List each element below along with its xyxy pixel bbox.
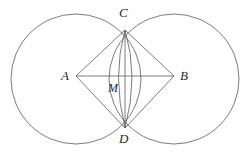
point-label-d: D [119, 132, 128, 145]
point-label-a: A [61, 69, 69, 82]
point-label-c: C [119, 6, 128, 19]
segment-AC [76, 30, 125, 76]
point-label-b: B [180, 69, 188, 82]
point-label-m: M [108, 82, 118, 95]
lens-arc-left [119, 30, 126, 128]
geometry-figure: A B C D M [0, 0, 250, 158]
segment-CB [125, 30, 174, 76]
segment-BD [125, 76, 174, 128]
